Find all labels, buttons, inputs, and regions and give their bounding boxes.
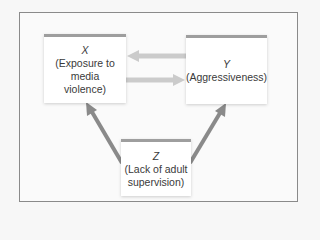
node-y-aggressiveness: Y (Aggressiveness) xyxy=(186,35,267,104)
node-z-label-line-1: (Lack of adult xyxy=(124,163,187,176)
node-y-variable: Y xyxy=(223,58,230,71)
arrow-y-to-x xyxy=(127,50,186,62)
node-x-exposure-to-media-violence: X (Exposure to media violence) xyxy=(44,34,126,103)
arrow-z-to-y xyxy=(190,103,226,163)
node-x-variable: X xyxy=(81,44,88,57)
arrow-z-to-x xyxy=(86,102,122,163)
node-x-label-line-1: (Exposure to xyxy=(55,57,115,70)
arrow-x-to-y xyxy=(126,74,185,86)
node-x-label-line-2: media xyxy=(71,70,100,83)
node-y-label-line-1: (Aggressiveness) xyxy=(186,71,267,84)
node-z-label-line-2: supervision) xyxy=(128,176,185,189)
node-x-label-line-3: violence) xyxy=(64,83,106,96)
node-z-variable: Z xyxy=(153,150,159,163)
node-z-lack-of-adult-supervision: Z (Lack of adult supervision) xyxy=(121,139,191,196)
